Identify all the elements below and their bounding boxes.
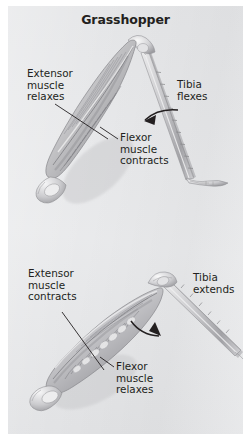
leader-top-extensor xyxy=(55,104,108,139)
leader-bottom-extensor xyxy=(62,312,104,370)
leader-bottom-flexor xyxy=(100,357,114,367)
grasshopper-leg-figure: Grasshopper xyxy=(0,0,251,442)
label-top-extensor: Extensor muscle relaxes xyxy=(27,68,73,103)
label-bottom-tibia: Tibia extends xyxy=(193,272,234,295)
label-top-tibia: Tibia flexes xyxy=(177,79,207,102)
label-bottom-extensor: Extensor muscle contracts xyxy=(28,268,77,303)
arrow-tibia-extends xyxy=(131,321,161,336)
page-title: Grasshopper xyxy=(0,12,251,27)
label-top-flexor: Flexor muscle contracts xyxy=(120,132,169,167)
arrow-tibia-flexes xyxy=(144,110,178,125)
label-bottom-flexor: Flexor muscle relaxes xyxy=(116,361,153,396)
leader-top-flexor xyxy=(100,127,118,139)
